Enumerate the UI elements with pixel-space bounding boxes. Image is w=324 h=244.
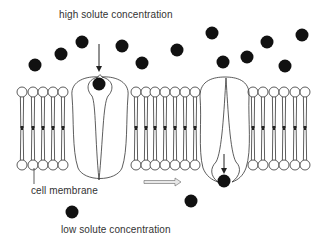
solute-particle-above xyxy=(171,44,184,57)
solute-particle-above xyxy=(296,29,309,42)
label-cell-membrane: cell membrane xyxy=(31,185,98,196)
lipid-molecule xyxy=(190,87,200,170)
diagram-canvas xyxy=(0,0,324,244)
lipid-molecule xyxy=(141,87,151,170)
solute-particle-in-channel xyxy=(93,78,106,91)
lipid-molecule xyxy=(131,87,141,170)
lipid-molecule xyxy=(150,87,160,170)
label-low-solute-concentration: low solute concentration xyxy=(61,224,171,235)
lipid-molecule xyxy=(180,87,190,170)
lipid-molecule xyxy=(58,87,68,170)
solute-particle-below xyxy=(185,195,198,208)
solute-particle-above xyxy=(206,27,219,40)
channel-protein-right xyxy=(200,77,249,182)
solute-particle-above xyxy=(279,60,292,73)
lipid-molecule xyxy=(38,87,48,170)
solute-particle-above xyxy=(116,40,129,53)
solute-particle-above xyxy=(217,56,230,69)
lipid-molecule xyxy=(279,87,289,170)
label-high-solute-concentration: high solute concentration xyxy=(59,9,173,20)
solute-particle-above xyxy=(241,51,254,64)
solute-particle-below xyxy=(66,206,79,219)
solute-particle-exiting xyxy=(218,175,231,188)
lipid-molecule xyxy=(28,87,38,170)
arrow-into-channel-icon xyxy=(96,44,102,72)
solute-particle-above xyxy=(261,36,274,49)
solute-particle-above xyxy=(136,57,149,70)
lipid-molecule xyxy=(269,87,279,170)
channel-protein-left xyxy=(72,75,128,180)
lipid-molecule xyxy=(170,87,180,170)
lipid-molecule xyxy=(258,87,268,170)
solute-particle-above xyxy=(55,48,68,61)
solute-particle-above xyxy=(29,59,42,72)
solute-particle-above xyxy=(76,36,89,49)
lipid-molecule xyxy=(300,87,310,170)
lipid-molecule xyxy=(48,87,58,170)
lipid-molecule xyxy=(290,87,300,170)
lipid-molecule xyxy=(17,87,27,170)
process-arrow-icon xyxy=(144,178,181,186)
lipid-bilayer xyxy=(17,87,310,170)
arrow-out-of-channel-icon xyxy=(221,154,227,174)
lipid-molecule xyxy=(160,87,170,170)
